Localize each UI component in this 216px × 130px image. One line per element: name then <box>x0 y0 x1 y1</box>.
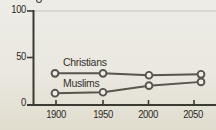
x-tick-label-2000: 2000 <box>132 109 164 120</box>
marker-christians-2000 <box>146 72 153 79</box>
y-tick-label-50: 50 <box>5 51 26 62</box>
y-tick-label-0: 0 <box>5 97 26 108</box>
x-tick-label-2050: 2050 <box>177 109 209 120</box>
marker-christians-2050 <box>198 71 205 78</box>
marker-muslims-1950 <box>100 89 107 96</box>
series-label-muslims: Muslims <box>63 77 99 89</box>
y-tick-label-100: 100 <box>5 4 26 15</box>
marker-christians-1950 <box>100 70 107 77</box>
x-tick-label-1950: 1950 <box>87 109 119 120</box>
marker-muslims-2000 <box>146 82 153 89</box>
series-label-christians: Christians <box>63 56 107 68</box>
marker-muslims-2050 <box>198 78 205 85</box>
chart-figure: 100 50 0 1900 1950 2000 2050 Christians … <box>0 0 216 130</box>
line-christians <box>55 73 201 75</box>
marker-christians-1900 <box>52 70 59 77</box>
x-tick-label-1900: 1900 <box>40 109 72 120</box>
marker-muslims-1900 <box>52 90 59 97</box>
